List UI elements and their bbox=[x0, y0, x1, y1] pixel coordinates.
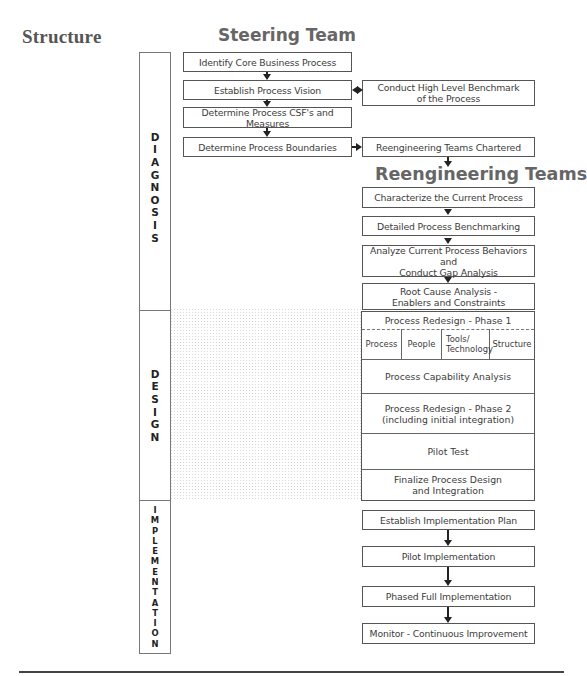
row-capability-analysis: Process Capability Analysis bbox=[362, 359, 534, 394]
box-analyze-gap: Analyze Current Process Behaviors andCon… bbox=[362, 245, 535, 277]
design-block: Process Redesign - Phase 1 Process Peopl… bbox=[361, 311, 535, 501]
phase-implementation-label: IMPLEMENTATION bbox=[151, 505, 159, 649]
phase-diagnosis: DIAGNOSIS bbox=[139, 52, 171, 311]
box-phased-full-implementation: Phased Full Implementation bbox=[362, 586, 535, 607]
box-high-level-benchmark: Conduct High Level Benchmarkof the Proce… bbox=[362, 80, 535, 106]
steering-team-title: Steering Team bbox=[218, 25, 356, 45]
box-root-cause: Root Cause Analysis -Enablers and Constr… bbox=[362, 283, 535, 310]
design-shaded-area bbox=[170, 308, 363, 501]
box-pilot-implementation: Pilot Implementation bbox=[362, 546, 535, 567]
phase-design: DESIGN bbox=[139, 310, 171, 501]
box-characterize-current: Characterize the Current Process bbox=[362, 187, 535, 208]
phase-implementation: IMPLEMENTATION bbox=[139, 500, 171, 654]
row-redesign-phase2: Process Redesign - Phase 2(including ini… bbox=[362, 393, 534, 433]
box-establish-vision: Establish Process Vision bbox=[183, 80, 352, 100]
box-identify-core-process: Identify Core Business Process bbox=[183, 52, 352, 72]
cell-people: People bbox=[402, 329, 442, 359]
box-detailed-benchmarking: Detailed Process Benchmarking bbox=[362, 216, 535, 236]
row-pilot-test: Pilot Test bbox=[362, 433, 534, 469]
cell-process: Process bbox=[362, 329, 402, 359]
phase1-dimensions: Process People Tools/ Technology Structu… bbox=[362, 329, 534, 360]
phase-design-label: DESIGN bbox=[151, 368, 160, 444]
phase1-title: Process Redesign - Phase 1 bbox=[362, 312, 534, 329]
row-finalize-design: Finalize Process Designand Integration bbox=[362, 469, 534, 500]
cell-structure: Structure bbox=[490, 329, 534, 359]
reengineering-teams-title: Reengineering Teams bbox=[375, 164, 587, 184]
box-teams-chartered: Reengineering Teams Chartered bbox=[362, 137, 535, 157]
box-implementation-plan: Establish Implementation Plan bbox=[362, 510, 535, 530]
box-determine-csf: Determine Process CSF's and Measures bbox=[183, 107, 352, 128]
box-determine-boundaries: Determine Process Boundaries bbox=[183, 137, 352, 157]
cell-tools-technology: Tools/ Technology bbox=[442, 329, 490, 359]
box-monitor-improvement: Monitor - Continuous Improvement bbox=[362, 623, 535, 644]
section-title: Structure bbox=[22, 26, 102, 48]
bottom-divider bbox=[19, 671, 564, 673]
phase-diagnosis-label: DIAGNOSIS bbox=[151, 131, 160, 244]
